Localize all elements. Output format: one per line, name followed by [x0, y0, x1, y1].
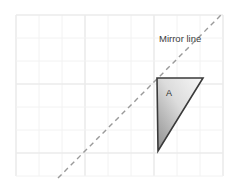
diagram-background — [0, 0, 239, 186]
mirror-line-label: Mirror line — [159, 33, 201, 44]
reflection-diagram: Mirror line A — [0, 0, 239, 186]
diagram-canvas: Mirror line A — [0, 0, 239, 186]
shape-a-label: A — [166, 88, 172, 98]
